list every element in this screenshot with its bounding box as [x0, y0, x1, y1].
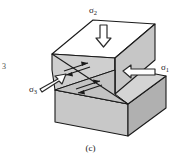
sigma3-subscript: 3: [34, 88, 37, 95]
sigma1-subscript: 1: [166, 66, 169, 73]
edge-marker-label: 3: [2, 63, 6, 71]
sigma2-label: σ2: [89, 6, 97, 15]
block-diagram-svg: [0, 0, 181, 165]
stress-block-figure: σ2 σ1 σ3 3 (c): [0, 0, 181, 165]
sigma2-subscript: 2: [94, 9, 97, 16]
figure-caption: (c): [0, 143, 181, 153]
sigma3-label: σ3: [29, 85, 37, 94]
sigma1-label: σ1: [161, 63, 169, 72]
